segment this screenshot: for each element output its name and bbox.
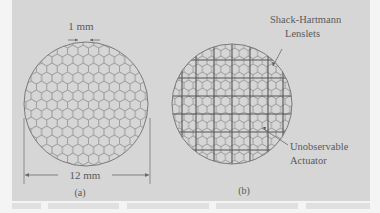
hex-actuator-array [20,40,152,170]
lenslet-leader [272,49,282,66]
actuator-label-line1: Unobservable [290,141,349,152]
figure-svg: 1 mm 12 mm (a) [0,0,380,213]
pitch-label: 1 mm [68,20,94,32]
actuator-label-line2: Actuator [290,155,327,166]
lenslet-label-line2: Lenslets [285,28,320,39]
caption-a: (a) [74,187,85,199]
caption-b: (b) [238,185,250,197]
lenslet-label-line1: Shack-Hartmann [270,14,342,25]
diameter-label: 12 mm [70,169,101,181]
pitch-dimension: 1 mm [68,20,100,42]
lenslet-grid-overlay [172,44,294,166]
